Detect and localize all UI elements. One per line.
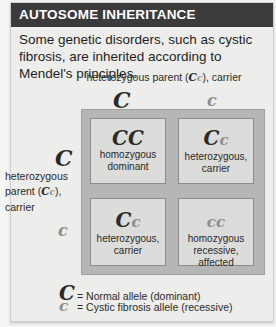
cell-description-line2: carrier	[179, 163, 253, 175]
allele-recessive: c	[207, 213, 216, 231]
left-allele-dominant: C	[55, 145, 73, 171]
left-parent-label-suffix: ),	[55, 185, 61, 197]
cell-description-line1: homozygous	[179, 233, 253, 245]
cell-description-line2: dominant	[91, 161, 165, 173]
top-allele-recessive: c	[207, 91, 217, 110]
left-parent-genotype-dominant: C	[41, 185, 49, 197]
genotype: CC	[91, 127, 165, 149]
cell-description-line1: heterozygous,	[179, 151, 253, 163]
legend-item-dominant: C = Normal allele (dominant)	[59, 281, 233, 297]
allele-dominant: C	[115, 208, 131, 232]
punnett-cell-cc-carrier-top: Cc heterozygous, carrier	[178, 118, 254, 184]
legend-text-recessive: = Cystic fibrosis allele (recessive)	[77, 301, 233, 313]
left-parent-label-line2: parent (Cc),	[5, 184, 65, 200]
allele-recessive: c	[219, 131, 228, 149]
allele-recessive: c	[131, 213, 140, 231]
left-parent-label-line1: heterozygous	[5, 169, 65, 184]
punnett-cell-cc-dominant: CC homozygous dominant	[90, 118, 166, 184]
top-parent-label: heterozygous parent (Cc), carrier	[11, 71, 273, 83]
top-parent-label-prefix: heterozygous parent (	[86, 71, 188, 83]
genotype: Cc	[91, 209, 165, 233]
top-parent-genotype-dominant: C	[189, 71, 197, 83]
cell-description-line1: heterozygous,	[91, 233, 165, 245]
punnett-cell-cc-recessive: cc homozygous recessive, affected	[178, 198, 254, 266]
genotype: Cc	[179, 127, 253, 151]
legend: C = Normal allele (dominant) c = Cystic …	[59, 281, 233, 313]
allele-dominant: C	[112, 126, 128, 150]
panel-header: AUTOSOME INHERITANCE	[11, 3, 273, 27]
autosome-inheritance-panel: AUTOSOME INHERITANCE Some genetic disord…	[10, 2, 274, 322]
panel-title: AUTOSOME INHERITANCE	[19, 7, 196, 22]
left-allele-recessive: c	[58, 221, 68, 240]
punnett-square: CC homozygous dominant Cc heterozygous, …	[81, 109, 265, 275]
left-parent-label-line3: carrier	[5, 200, 65, 215]
allele-dominant: C	[128, 126, 144, 150]
allele-dominant: C	[203, 126, 219, 150]
left-parent-label-prefix: parent (	[5, 185, 41, 197]
allele-recessive: c	[216, 213, 225, 231]
cell-description-line1: homozygous	[91, 149, 165, 161]
genotype: cc	[179, 209, 253, 233]
legend-symbol-recessive: c	[59, 297, 77, 315]
left-parent-label: heterozygous parent (Cc), carrier	[5, 169, 65, 215]
cell-description-line2: recessive, affected	[179, 245, 253, 269]
cell-description-line2: carrier	[91, 245, 165, 257]
top-parent-label-suffix: ), carrier	[202, 71, 241, 83]
punnett-cell-cc-carrier-bottom: Cc heterozygous, carrier	[90, 198, 166, 266]
